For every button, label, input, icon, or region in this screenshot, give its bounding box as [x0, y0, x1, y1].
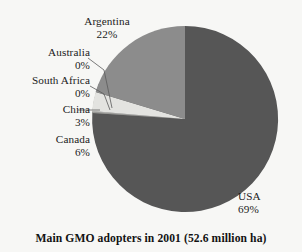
pie-label-south-africa-name: South Africa: [2, 74, 90, 87]
pie-label-usa-value: 69%: [238, 203, 294, 216]
pie-label-australia-name: Australia: [12, 46, 90, 59]
pie-label-australia-value: 0%: [12, 59, 90, 72]
pie-label-south-africa: South Africa 0%: [2, 74, 90, 99]
pie-label-argentina-value: 22%: [64, 28, 150, 41]
pie-label-australia: Australia 0%: [12, 46, 90, 71]
pie-label-argentina-name: Argentina: [64, 15, 150, 28]
chart-caption: Main GMO adopters in 2001 (52.6 million …: [0, 232, 302, 245]
pie-label-south-africa-value: 0%: [2, 87, 90, 100]
pie-label-china-value: 3%: [18, 116, 90, 129]
pie-label-canada-value: 6%: [16, 146, 90, 159]
pie-label-usa: USA 69%: [238, 190, 294, 215]
pie-label-usa-name: USA: [238, 190, 294, 203]
pie-label-argentina: Argentina 22%: [64, 15, 150, 40]
pie-label-china: China 3%: [18, 103, 90, 128]
pie-label-canada: Canada 6%: [16, 133, 90, 158]
pie-label-china-name: China: [18, 103, 90, 116]
pie-label-canada-name: Canada: [16, 133, 90, 146]
pie-chart-figure: Argentina 22% Australia 0% South Africa …: [0, 0, 302, 252]
